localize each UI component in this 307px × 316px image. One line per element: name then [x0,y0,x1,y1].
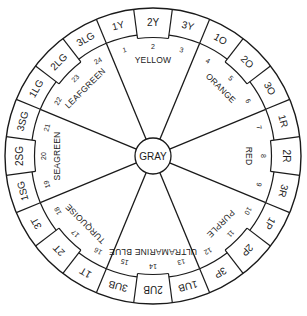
hue-circle-diagram: 1Y2Y3Y1O2O3O1R2R3R1P2P3P1UB2UB3UB1T2T3T1… [0,0,307,316]
hue-number: 17 [70,228,81,239]
hue-cell-3y: 3Y [181,19,196,33]
hue-cell-3t: 3T [28,216,43,232]
hue-cell-1p: 1P [262,215,278,231]
hue-number: 14 [149,263,157,270]
hue-number: 9 [255,182,263,188]
hue-cell-2p: 2P [239,242,256,259]
hue-cell-1o: 1O [212,31,229,47]
hue-number: 1 [122,46,128,54]
hue-cell-2ub: 2UB [143,284,163,295]
center-label: GRAY [139,151,167,162]
hue-number: 21 [42,123,51,132]
hue-number: 8 [260,154,267,158]
hue-cell-3r: 3R [276,183,290,198]
hue-cell-3ub: 3UB [107,278,129,294]
hue-cell-1lg: 1LG [27,77,46,99]
hue-cell-2y: 2Y [147,17,160,28]
center-gray: GRAY [135,138,171,174]
hue-number: 19 [42,180,51,189]
hue-number: 2 [151,43,155,50]
hue-cell-2sg: 2SG [14,146,25,166]
hue-number: 23 [70,73,81,84]
hue-cell-1sg: 1SG [15,180,31,202]
hue-cell-2t: 2T [51,242,67,258]
hue-number: 6 [244,98,252,105]
hue-number: 3 [179,46,185,54]
hue-cell-2o: 2O [239,53,256,70]
hue-number: 20 [40,152,47,160]
hue-number: 12 [203,246,213,256]
hue-number: 22 [53,96,63,106]
hue-number: 24 [93,56,103,66]
hue-cell-1t: 1T [78,265,94,280]
hue-cell-3sg: 3SG [15,110,31,132]
hue-number: 7 [255,125,263,131]
hue-number: 18 [53,206,63,216]
hue-name-red: RED [244,147,254,166]
hue-cell-3p: 3P [212,265,228,281]
hue-name-yellow: YELLOW [135,55,172,65]
hue-cell-3lg: 3LG [75,29,97,48]
hue-number: 5 [227,74,235,82]
hue-number: 13 [177,258,186,267]
hue-number: 11 [226,229,236,239]
hue-cell-2r: 2R [281,150,292,163]
hue-number: 4 [205,57,212,65]
hue-cell-1y: 1Y [111,19,126,33]
hue-number: 15 [120,258,129,267]
hue-cell-1ub: 1UB [177,279,199,295]
hue-cell-2lg: 2LG [48,51,69,72]
hue-cell-3o: 3O [262,80,278,97]
hue-name-seagreen: SEAGREEN [52,132,62,181]
hue-name-turquoise: TURQUOISE [63,202,107,246]
hue-name-ultramarine-blue: ULTRAMARINE BLUE [109,247,197,257]
hue-number: 10 [243,206,253,216]
hue-number: 16 [93,246,103,256]
hue-cell-1r: 1R [276,113,290,128]
